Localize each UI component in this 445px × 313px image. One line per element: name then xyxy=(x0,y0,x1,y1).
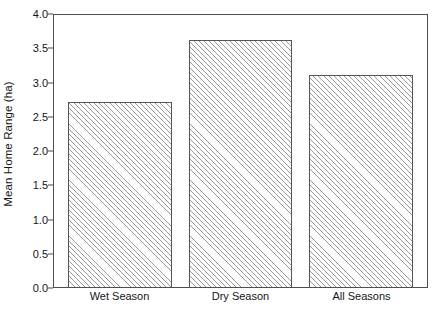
y-axis-title-text: Mean Home Range (ha) xyxy=(2,81,14,206)
x-axis-tick-label: Wet Season xyxy=(59,290,180,302)
x-axis-tick-label: Dry Season xyxy=(180,290,301,302)
bar-wet-season xyxy=(68,102,171,287)
y-axis-title: Mean Home Range (ha) xyxy=(0,0,16,288)
bar-dry-season xyxy=(189,40,292,287)
y-axis-tick-labels: 0.00.51.01.52.02.53.03.54.0 xyxy=(16,14,48,288)
bar-slot xyxy=(180,15,300,287)
bar-all-seasons xyxy=(309,75,412,287)
y-axis-tick-label: 3.5 xyxy=(16,42,48,54)
x-axis-tick-labels: Wet SeasonDry SeasonAll Seasons xyxy=(53,290,428,302)
bar-chart-figure: Mean Home Range (ha) 0.00.51.01.52.02.53… xyxy=(0,0,445,313)
y-axis-tick-label: 0.5 xyxy=(16,248,48,260)
x-axis-tick-label: All Seasons xyxy=(301,290,422,302)
y-axis-tick-label: 0.0 xyxy=(16,282,48,294)
y-axis-tick-label: 3.0 xyxy=(16,77,48,89)
bar-slot xyxy=(301,15,421,287)
bar-series xyxy=(54,15,427,287)
y-axis-tick-label: 2.0 xyxy=(16,145,48,157)
plot-area xyxy=(53,14,428,288)
y-axis-tick-label: 1.0 xyxy=(16,214,48,226)
y-axis-tick-label: 4.0 xyxy=(16,8,48,20)
y-axis-tick-label: 1.5 xyxy=(16,179,48,191)
y-axis-tick-label: 2.5 xyxy=(16,111,48,123)
bar-slot xyxy=(60,15,180,287)
